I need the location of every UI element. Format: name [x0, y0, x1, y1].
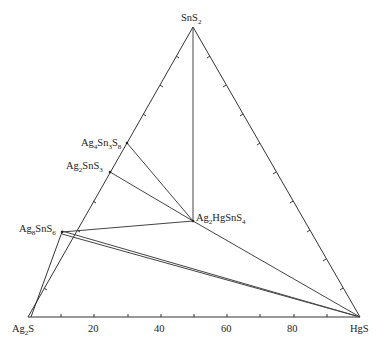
point-ag2sns3 — [109, 171, 112, 174]
tie-ag2hgsns4-hgs — [193, 221, 360, 317]
tie-ag4sn3s8-ag2hgsns4 — [127, 143, 193, 221]
vertex-label-hgs: HgS — [350, 323, 369, 334]
point-ag8sns6 — [61, 231, 64, 234]
point-ag4sn3s8 — [126, 142, 129, 145]
edge-ag2s-sns2-double — [31, 232, 62, 317]
tie-ag8sns6-hgs-b — [62, 234, 360, 317]
label-ag2hgsns4: Ag2HgSnS4 — [196, 212, 246, 226]
right-ticks — [207, 56, 343, 290]
tick-label-80: 80 — [287, 323, 298, 334]
edge-sns2-hgs — [193, 27, 360, 317]
vertex-label-sns2: SnS2 — [181, 12, 202, 26]
tick-label-60: 60 — [221, 323, 232, 334]
vertex-label-ag2s: Ag2S — [12, 323, 34, 337]
label-ag8sns6: Ag8SnS6 — [19, 223, 56, 237]
tie-ag2sns3-ag2hgsns4 — [110, 172, 193, 221]
tick-label-40: 40 — [154, 323, 165, 334]
tick-label-20: 20 — [88, 323, 99, 334]
label-ag4sn3s8: Ag4Sn3S8 — [81, 137, 122, 151]
ternary-phase-diagram: SnS2 Ag2S HgS 20 40 60 80 Ag4Sn3S8 Ag2Sn… — [0, 0, 385, 351]
point-ag2hgsns4 — [192, 220, 195, 223]
label-ag2sns3: Ag2SnS3 — [66, 160, 103, 174]
